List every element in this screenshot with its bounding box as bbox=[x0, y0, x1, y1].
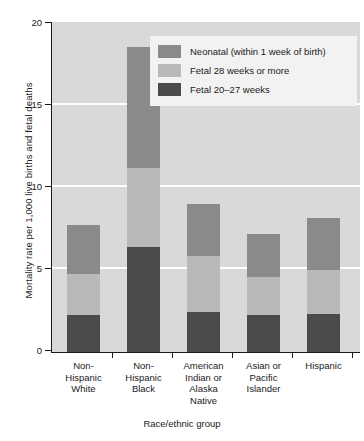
x-label-line: Black bbox=[111, 383, 177, 395]
bar-segment-neonatal bbox=[307, 218, 340, 271]
plot-area: Neonatal (within 1 week of birth) Fetal … bbox=[52, 22, 360, 352]
bar-segment-fetal28 bbox=[247, 277, 280, 316]
legend-item-fetal20: Fetal 20–27 weeks bbox=[150, 80, 357, 99]
x-label-line: American bbox=[171, 360, 237, 372]
y-tick-label-20: 20 bbox=[2, 17, 42, 28]
x-label-line: Asian or bbox=[231, 360, 297, 372]
bar-segment-fetal28 bbox=[127, 168, 160, 247]
x-tick-label-non-hispanic-black: Non- Hispanic Black bbox=[111, 360, 177, 395]
legend-item-fetal28: Fetal 28 weeks or more bbox=[150, 61, 357, 80]
x-tick-label-non-hispanic-white: Non- Hispanic White bbox=[51, 360, 117, 395]
x-label-line: Native bbox=[171, 395, 237, 407]
bar-segment-fetal20 bbox=[127, 247, 160, 352]
bar-american-indian-alaska-native bbox=[187, 204, 220, 352]
y-tick-label-0: 0 bbox=[2, 345, 42, 356]
bar-segment-fetal28 bbox=[67, 274, 100, 315]
legend-swatch-icon-fetal20 bbox=[158, 83, 181, 96]
bar-non-hispanic-white bbox=[67, 225, 100, 352]
x-axis-spine bbox=[52, 352, 360, 353]
bar-segment-fetal28 bbox=[307, 270, 340, 314]
bar-segment-neonatal bbox=[67, 225, 100, 274]
x-label-line: Hispanic bbox=[291, 360, 357, 372]
bar-hispanic bbox=[307, 218, 340, 352]
stacked-bar-chart: Mortality rate per 1,000 live births and… bbox=[0, 0, 364, 441]
bar-segment-fetal20 bbox=[307, 314, 340, 352]
x-label-line: Indian or bbox=[171, 372, 237, 384]
x-tick-3 bbox=[232, 353, 233, 358]
y-tick-label-5: 5 bbox=[2, 263, 42, 274]
y-tick-label-10: 10 bbox=[2, 181, 42, 192]
bar-segment-fetal20 bbox=[247, 315, 280, 352]
x-label-line: Hispanic bbox=[111, 372, 177, 384]
x-label-line: Pacific bbox=[231, 372, 297, 384]
bar-segment-fetal20 bbox=[67, 315, 100, 352]
x-tick-label-hispanic: Hispanic bbox=[291, 360, 357, 372]
x-tick-5 bbox=[352, 353, 353, 358]
chart-legend: Neonatal (within 1 week of birth) Fetal … bbox=[150, 36, 357, 106]
legend-swatch-icon-neonatal bbox=[158, 45, 181, 58]
x-label-line: Non- bbox=[51, 360, 117, 372]
x-tick-label-american-indian-alaska-native: American Indian or Alaska Native bbox=[171, 360, 237, 406]
x-label-line: White bbox=[51, 383, 117, 395]
x-tick-4 bbox=[292, 353, 293, 358]
legend-item-neonatal: Neonatal (within 1 week of birth) bbox=[150, 42, 357, 61]
bar-segment-neonatal bbox=[247, 234, 280, 277]
bar-segment-fetal20 bbox=[187, 312, 220, 352]
legend-label-fetal28: Fetal 28 weeks or more bbox=[190, 65, 289, 76]
bar-segment-neonatal bbox=[187, 204, 220, 256]
bar-asian-pacific-islander bbox=[247, 234, 280, 352]
y-tick-label-15: 15 bbox=[2, 99, 42, 110]
x-tick-1 bbox=[112, 353, 113, 358]
x-label-line: Hispanic bbox=[51, 372, 117, 384]
x-label-line: Alaska bbox=[171, 383, 237, 395]
x-label-line: Islander bbox=[231, 383, 297, 395]
y-axis-spine bbox=[51, 22, 52, 353]
legend-swatch-icon-fetal28 bbox=[158, 64, 181, 77]
bar-segment-fetal28 bbox=[187, 256, 220, 312]
legend-label-fetal20: Fetal 20–27 weeks bbox=[190, 84, 270, 95]
x-axis-title: Race/ethnic group bbox=[0, 418, 364, 429]
x-label-line: Non- bbox=[111, 360, 177, 372]
gridline-10 bbox=[52, 185, 360, 187]
x-tick-label-asian-pacific-islander: Asian or Pacific Islander bbox=[231, 360, 297, 395]
legend-label-neonatal: Neonatal (within 1 week of birth) bbox=[190, 46, 326, 57]
x-tick-2 bbox=[172, 353, 173, 358]
